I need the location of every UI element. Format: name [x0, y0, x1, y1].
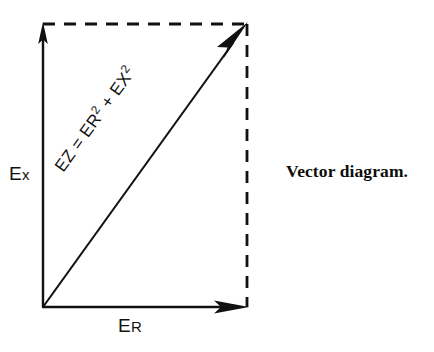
ex-vector — [38, 22, 48, 307]
ex-label-main: E — [9, 163, 22, 184]
ex-label-sub: x — [22, 166, 30, 183]
ez-vector-shaft — [43, 43, 233, 307]
ex-axis-label: Ex — [9, 163, 30, 185]
er-axis-label: ER — [118, 315, 142, 337]
ez-vector-arrowhead — [217, 22, 248, 59]
er-vector — [42, 301, 249, 314]
er-label-sub: R — [131, 318, 142, 335]
er-label-main: E — [118, 315, 131, 336]
figure-caption: Vector diagram. — [286, 161, 408, 182]
